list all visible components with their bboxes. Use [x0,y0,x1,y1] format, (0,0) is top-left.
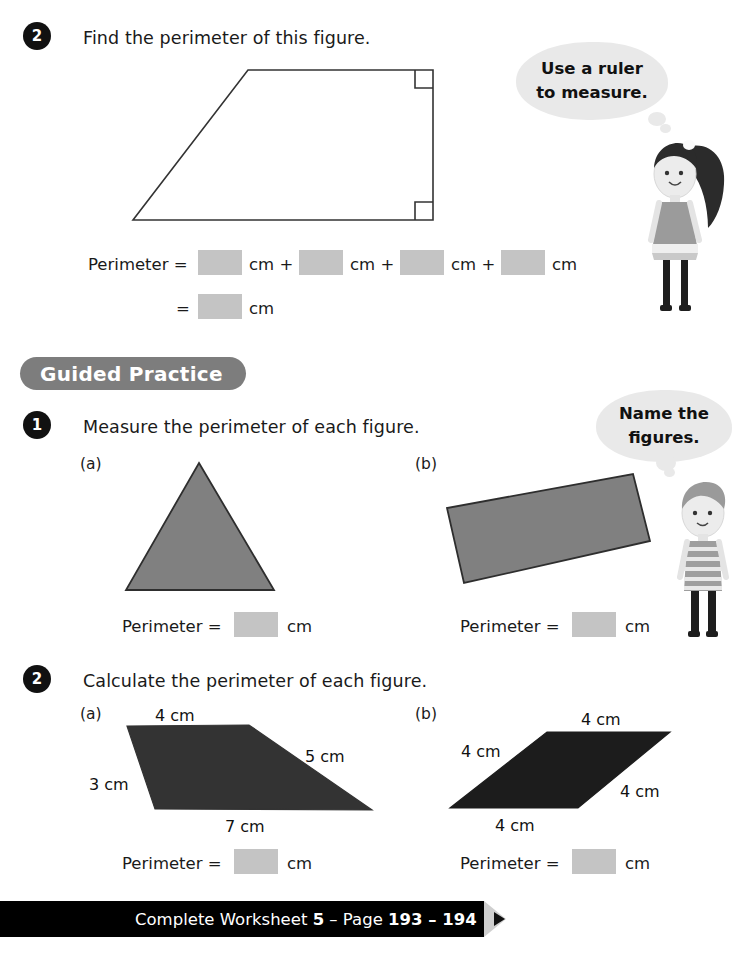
dim-label-2b-left: 4 cm [461,742,501,761]
footer-pages: 193 – 194 [388,910,477,929]
footer-banner-arrow-black [494,912,505,926]
answer-blank-2b[interactable] [572,849,616,874]
perimeter-label-2b: Perimeter = [460,854,560,873]
worksheet-page: 2 Find the perimeter of this figure. Per… [0,0,754,970]
dim-label-2b-top: 4 cm [581,710,621,729]
footer-banner-text: Complete Worksheet 5 – Page 193 – 194 [0,910,477,929]
dim-label-2b-right: 4 cm [620,782,660,801]
answer-blank-2a[interactable] [234,849,278,874]
dim-label-2b-bottom: 4 cm [495,816,535,835]
footer-prefix: Complete Worksheet [135,910,313,929]
unit-2b: cm [625,854,650,873]
footer-worksheet-number: 5 [313,910,324,929]
unit-2a: cm [287,854,312,873]
rhombus-figure-2b [0,0,754,830]
perimeter-label-2a: Perimeter = [122,854,222,873]
footer-separator: – Page [324,910,388,929]
footer-banner[interactable]: Complete Worksheet 5 – Page 193 – 194 [0,901,484,937]
